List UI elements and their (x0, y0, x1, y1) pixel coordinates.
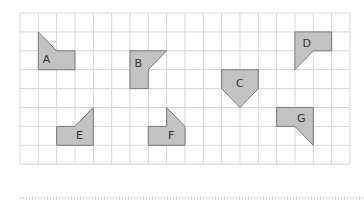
shape-f: F (148, 108, 185, 146)
shape-label: E (76, 129, 83, 142)
shape-label: F (168, 129, 174, 142)
shapes-grid-figure: ABCDEFG (0, 0, 364, 221)
shape-c: C (222, 70, 259, 108)
shape-label: G (297, 112, 306, 125)
shape-label: D (303, 37, 311, 50)
shape-label: A (43, 53, 51, 66)
shape-label: C (236, 77, 244, 90)
shape-label: B (134, 57, 142, 70)
shape-polygon (148, 108, 185, 146)
